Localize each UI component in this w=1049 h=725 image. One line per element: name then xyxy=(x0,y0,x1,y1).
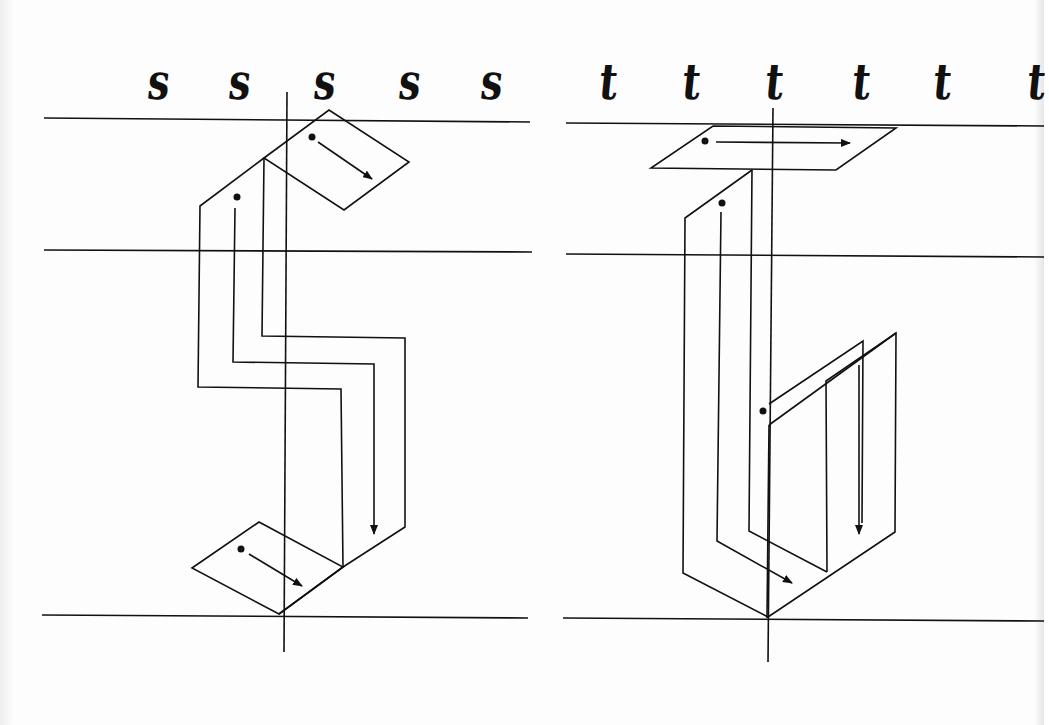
panel-t xyxy=(563,108,1044,662)
t-stem-outer-contour xyxy=(683,170,896,617)
stroke-start-dot xyxy=(238,546,245,553)
t-hairline-upper-edge xyxy=(769,341,863,523)
t-hairline-lower-edge xyxy=(769,333,896,425)
stroke-start-dot xyxy=(719,200,726,207)
x-height-line-t xyxy=(566,254,1044,257)
baseline-t xyxy=(563,618,1044,621)
s-outer-contour xyxy=(198,158,343,614)
stroke-start-dot xyxy=(309,134,316,141)
stroke-arrow-top-s xyxy=(318,142,372,179)
stroke-start-dot xyxy=(702,138,709,145)
stroke-arrow-stem-t xyxy=(717,212,792,583)
stroke-arrow-crossbar-t xyxy=(716,142,850,143)
panel-t-arrows xyxy=(716,142,859,583)
vertical-axis-t xyxy=(768,108,773,662)
stroke-arrow-spine-s xyxy=(233,208,374,534)
stroke-start-dot xyxy=(760,408,767,415)
t-stem-inner-right xyxy=(749,170,827,572)
baseline-s xyxy=(42,615,528,618)
x-height-line-s xyxy=(44,250,532,252)
panel-s xyxy=(42,92,532,652)
stroke-arrow-bottom-s xyxy=(249,554,302,586)
vertical-axis-s xyxy=(284,92,287,652)
stroke-start-dot xyxy=(234,194,241,201)
ascender-line-t xyxy=(566,123,1044,126)
bottom-nib-rhombus-s xyxy=(192,522,343,614)
